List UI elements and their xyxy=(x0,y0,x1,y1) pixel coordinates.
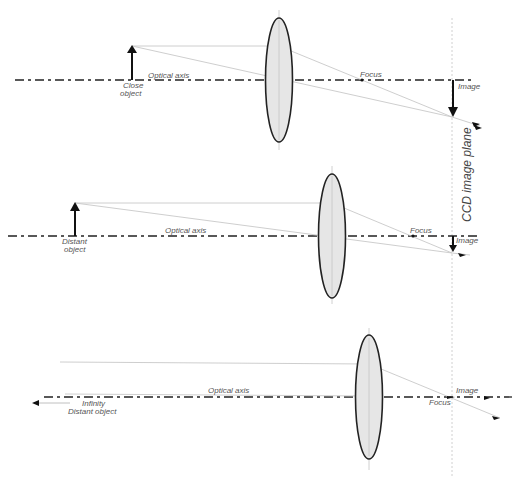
arrow-down-icon xyxy=(449,245,457,252)
object-label-2: object xyxy=(64,245,86,254)
arrow-left-icon xyxy=(32,400,39,406)
object-label-2: object xyxy=(120,89,142,98)
object-label-2: Distant object xyxy=(68,407,117,416)
image-label: Image xyxy=(458,82,481,91)
panel-infinity: Optical axis Infinity Distant object Foc… xyxy=(32,328,512,470)
axis-label: Optical axis xyxy=(148,71,189,80)
ccd-image-plane-label: CCD image plane xyxy=(460,127,474,222)
optics-diagram: Optical axis Close object Focus Image Op… xyxy=(0,0,514,480)
axis-label: Optical axis xyxy=(208,386,249,395)
focus-label: Focus xyxy=(429,398,451,407)
focus-label: Focus xyxy=(410,226,432,235)
panel-close-object: Optical axis Close object Focus Image xyxy=(15,10,482,150)
image-label: Image xyxy=(456,386,479,395)
panel-distant-object: Optical axis Distant object Focus Image xyxy=(8,166,479,304)
image-label: Image xyxy=(456,236,479,245)
focus-label: Focus xyxy=(360,70,382,79)
axis-label: Optical axis xyxy=(165,226,206,235)
